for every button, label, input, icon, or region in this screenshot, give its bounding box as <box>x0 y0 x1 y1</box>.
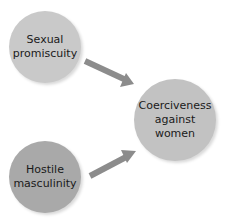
node-label: Hostile masculinity <box>13 163 76 191</box>
arrow-sexual-promiscuity-to-coerciveness <box>85 61 134 87</box>
node-sexual-promiscuity: Sexual promiscuity <box>9 11 81 83</box>
node-label: Coerciveness against women <box>138 99 211 141</box>
node-label: Sexual promiscuity <box>13 33 77 61</box>
arrow-hostile-masculinity-to-coerciveness <box>90 150 136 176</box>
node-hostile-masculinity: Hostile masculinity <box>9 141 81 213</box>
node-coerciveness-against-women: Coerciveness against women <box>134 79 216 161</box>
